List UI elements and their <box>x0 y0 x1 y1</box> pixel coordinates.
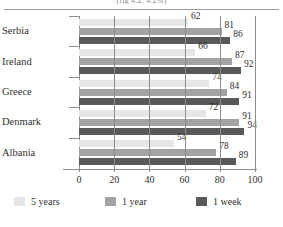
x-axis-tick-label: 40 <box>134 174 164 185</box>
category-label: Greece <box>2 86 66 97</box>
bar-value-label: 62 <box>191 11 201 21</box>
bar <box>79 110 206 117</box>
bar-value-label: 89 <box>239 150 249 160</box>
x-axis-tick <box>255 169 256 172</box>
bar <box>79 158 236 165</box>
legend-label: 5 years <box>31 196 60 207</box>
category-label: Serbia <box>2 25 66 36</box>
x-gridline <box>220 16 221 169</box>
header-divider <box>4 9 279 10</box>
y-axis-tick <box>69 107 79 108</box>
legend-swatch <box>105 197 116 206</box>
bar <box>79 19 188 26</box>
category-label: Ireland <box>2 56 66 67</box>
legend-swatch <box>14 197 25 206</box>
legend-swatch <box>196 197 207 206</box>
x-axis-tick <box>79 169 80 172</box>
x-axis-tick-label: 80 <box>205 174 235 185</box>
legend-label: 1 year <box>122 196 147 207</box>
x-axis-tick <box>114 169 115 172</box>
bar-value-label: 66 <box>198 41 208 51</box>
bar-value-label: 84 <box>230 81 240 91</box>
bar-value-label: 92 <box>244 59 254 69</box>
x-axis-tick <box>149 169 150 172</box>
bar <box>79 58 232 65</box>
legend-item[interactable]: 1 year <box>105 196 147 207</box>
bar <box>79 140 174 147</box>
bar <box>79 49 195 56</box>
x-axis-tick <box>220 169 221 172</box>
y-axis-tick <box>69 16 79 17</box>
bar <box>79 80 209 87</box>
x-gridline <box>149 16 150 169</box>
x-gridline <box>114 16 115 169</box>
x-axis-line <box>63 169 257 170</box>
bar <box>79 119 239 126</box>
category-label: Albania <box>2 147 66 158</box>
y-axis-tick <box>69 46 79 47</box>
x-axis-tick <box>185 169 186 172</box>
bar-value-label: 91 <box>242 90 252 100</box>
legend-item[interactable]: 5 years <box>14 196 60 207</box>
bar <box>79 149 216 156</box>
y-axis-tick <box>69 138 79 139</box>
x-axis-tick-label: 100 <box>240 174 270 185</box>
plot-area: 628186668792748491729194547889 <box>79 16 255 168</box>
caption-fragment: (fig 4.2: 4.2%) <box>0 0 283 4</box>
bar-value-label: 86 <box>233 29 243 39</box>
x-axis-tick-label: 60 <box>170 174 200 185</box>
bar <box>79 89 227 96</box>
chart-legend: 5 years1 year1 week <box>0 196 283 218</box>
category-axis-labels: SerbiaIrelandGreeceDenmarkAlbania <box>0 16 74 168</box>
x-axis-tick-label: 0 <box>64 174 94 185</box>
legend-label: 1 week <box>213 196 242 207</box>
x-gridline <box>185 16 186 169</box>
bar-chart: SerbiaIrelandGreeceDenmarkAlbania 628186… <box>0 16 283 184</box>
bar-value-label: 72 <box>209 102 219 112</box>
x-gridline <box>255 16 256 169</box>
category-label: Denmark <box>2 116 66 127</box>
x-axis-tick-label: 20 <box>99 174 129 185</box>
y-axis-tick <box>69 77 79 78</box>
legend-item[interactable]: 1 week <box>196 196 242 207</box>
